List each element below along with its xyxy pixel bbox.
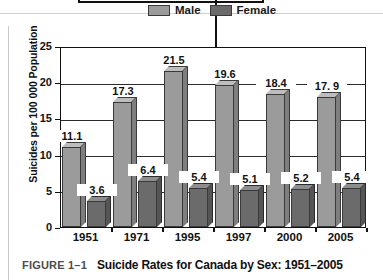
legend-entry-female: Female [210,4,277,16]
bar-male-1997 [215,85,234,227]
bar-chart: Suicides per 100 000 Population 05101520… [0,0,383,248]
bar-front-face [215,85,234,227]
x-tick-label: 1951 [63,231,109,243]
y-tick-label: 20 [26,76,52,88]
bar-front-face [189,188,208,227]
legend-label-male: Male [175,4,201,16]
bar-value-label: 5.1 [230,173,270,185]
bar-female-1997 [240,190,259,227]
bar-front-face [138,181,157,227]
bar-male-2005 [317,97,336,227]
bar-value-label: 3.6 [77,184,117,196]
legend-entry-male: Male [148,4,201,16]
bar-value-label: 6.4 [128,164,168,176]
x-tick-label: 2005 [318,231,364,243]
x-tick-mark [162,228,164,232]
bar-value-label: 19.6 [205,68,245,80]
figure-caption: FIGURE 1–1 Suicide Rates for Canada by S… [22,258,343,272]
x-tick-label: 2000 [267,231,313,243]
y-tick-label: 10 [26,149,52,161]
figure-page: Suicides per 100 000 Population 05101520… [0,0,383,280]
y-tick-mark [55,228,60,229]
x-tick-mark [366,228,368,232]
bar-value-label: 17. 9 [307,80,347,92]
y-tick-label: 0 [26,221,52,233]
y-axis-title: Suicides per 100 000 Population [27,4,39,204]
x-tick-label: 1971 [114,231,160,243]
bar-side-face [81,137,86,227]
bar-front-face [266,94,285,227]
bar-female-1951 [87,201,106,227]
bar-value-label: 18.4 [256,77,296,89]
bar-value-label: 17.3 [103,85,143,97]
x-tick-mark [264,228,266,232]
x-tick-label: 1995 [165,231,211,243]
bar-female-1995 [189,188,208,227]
bar-value-label: 21.5 [154,54,194,66]
bar-side-face [336,87,341,227]
bar-value-label: 5.4 [332,171,372,183]
bar-front-face [164,71,183,227]
bar-front-face [291,189,310,227]
bar-female-2000 [291,189,310,227]
y-tick-label: 15 [26,112,52,124]
x-tick-mark [213,228,215,232]
bar-front-face [240,190,259,227]
bar-female-2005 [342,188,361,227]
y-tick-label: 5 [26,185,52,197]
bar-front-face [317,97,336,227]
bar-value-label: 5.2 [281,172,321,184]
legend-swatch-male-icon [148,5,170,16]
legend-swatch-female-icon [210,5,232,16]
bar-male-1995 [164,71,183,227]
bar-value-label: 11.1 [52,130,92,142]
bar-value-label: 5.4 [179,171,219,183]
bar-side-face [234,75,239,227]
y-tick-label: 25 [26,40,52,52]
x-tick-mark [315,228,317,232]
legend: Male Female [148,4,276,16]
bar-side-face [183,61,188,227]
figure-title: Suicide Rates for Canada by Sex: 1951–20… [97,258,343,272]
bar-female-1971 [138,181,157,227]
x-tick-label: 1997 [216,231,262,243]
bar-side-face [285,84,290,227]
bar-front-face [342,188,361,227]
bar-male-2000 [266,94,285,227]
figure-number: FIGURE 1–1 [22,259,87,271]
legend-label-female: Female [237,4,277,16]
x-tick-mark [111,228,113,232]
bar-front-face [87,201,106,227]
bar-side-face [132,92,137,227]
